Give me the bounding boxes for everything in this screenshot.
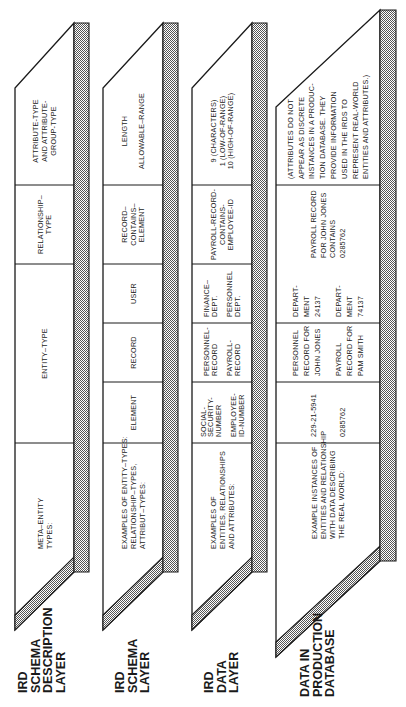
row-header: EXAMPLES OF ENTITY–TYPES:	[120, 436, 129, 549]
cell-text: DEPT.	[210, 296, 219, 317]
cell-text: 10 (HIGH-OF-RANGE)	[226, 93, 235, 170]
cell-text: RECORD	[233, 344, 242, 376]
cell-text: ENTITY–TYPE	[40, 328, 49, 379]
cell-text: LENGTH	[120, 116, 129, 146]
panel-shadow-edge	[380, 10, 396, 561]
cell-text: RECORD FOR	[302, 326, 311, 376]
panel-shadow-edge	[252, 23, 267, 572]
row-header: META–ENTITY	[36, 498, 45, 549]
cell-text: EMPLOYEE-ID	[226, 199, 235, 250]
cell-text: REPRESENT REAL-WORLD	[351, 81, 360, 179]
cell-text: RECORD	[210, 344, 219, 376]
row-header: WITH DATA DESCRIBING	[328, 450, 337, 539]
cell-text: PAM SMITH	[356, 335, 365, 376]
row-header: EXAMPLE INSTANCES OF	[310, 446, 319, 539]
cell-text: PROVIDE INFORMATION	[329, 91, 338, 179]
cell-text: CONTAINS	[328, 220, 337, 258]
cell-text: ID-NUMBER	[237, 394, 246, 437]
cell-text: APPEAR AS DISCRETE	[297, 97, 306, 179]
cell-text: MENT	[345, 295, 354, 317]
layer-name: LAYER	[227, 652, 241, 693]
cell-text: GROUP-TYPE	[49, 106, 58, 156]
row-header: ENTITIES AND RELATIONSHIP	[319, 431, 328, 539]
layer-name: LAYER	[138, 652, 152, 693]
cell-text: 74137	[356, 296, 365, 317]
cell-text: ALLOWABLE–RANGE	[137, 93, 146, 169]
cell-text: NUMBER	[214, 405, 223, 437]
row-header: THE REAL WORLD:	[337, 470, 346, 539]
cell-text: USER	[129, 283, 138, 304]
cell-text: DEPART-	[334, 285, 343, 317]
ird-layers-diagram: META–ENTITYTYPES:ENTITY–TYPERELATIONSHIP…	[0, 0, 406, 707]
cell-text: ENTITIES AND ATTRIBUTES.)	[361, 75, 370, 179]
row-header: EXAMPLES OF	[209, 496, 218, 549]
cell-text: JOHN JONES	[313, 328, 322, 376]
cell-text: 229-21-5941	[309, 394, 318, 437]
cell-text: 0285762	[338, 229, 347, 258]
cell-text: ELEMENT	[137, 206, 146, 242]
cell-text: TION DATABASE. THEY	[318, 96, 327, 179]
cell-text: TYPE	[44, 215, 53, 235]
cell-text: DEPT.	[233, 296, 242, 317]
row-header: TYPES:	[45, 522, 54, 549]
cell-text: DEPART-	[291, 285, 300, 317]
cell-text: PAYROLL RECORD	[309, 190, 318, 258]
row-header: AND ATTRIBUTES:	[227, 483, 236, 549]
cell-text: PAYROLL	[334, 343, 343, 377]
panel-shadow-edge	[163, 23, 178, 572]
layer-name: DATABASE	[323, 629, 337, 697]
cell-text: 24137	[313, 296, 322, 317]
cell-text: ELEMENT	[129, 394, 138, 430]
cell-text: FOR JOHN JONES	[319, 192, 328, 258]
row-header: ATTRIBUT–TYPES:	[138, 482, 147, 549]
cell-text: PERSONNEL	[291, 330, 300, 376]
cell-text: (ATTRIBUTES DO NOT	[286, 98, 295, 179]
panel-shadow-edge	[74, 23, 89, 572]
row-header: ENTITIES, RELATIONSHIPS	[218, 451, 227, 549]
cell-text: RECORD	[129, 336, 138, 368]
cell-text: RECORD FOR	[345, 326, 354, 376]
cell-text: USED IN THE IRDS TO	[340, 99, 349, 179]
cell-text: MENT	[302, 295, 311, 317]
cell-text: INSTANCES IN A PRODUC-	[307, 83, 316, 179]
row-header: RELATIONSHIP–TYPES,	[129, 463, 138, 549]
layer-name: LAYER	[54, 652, 68, 693]
cell-text: 0285762	[338, 408, 347, 437]
